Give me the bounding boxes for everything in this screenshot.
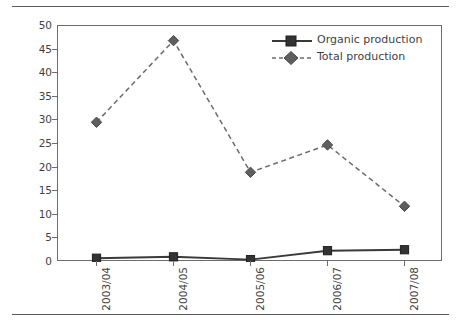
legend-marker-diamond-dashed	[270, 50, 314, 64]
y-axis-tick-label: 15	[26, 185, 52, 196]
figure-container: Production (thousand metric tons) 051015…	[0, 0, 461, 328]
y-axis-tick-label: 10	[26, 209, 52, 220]
data-point-marker	[400, 246, 408, 254]
legend-label-organic-production: Organic production	[317, 33, 422, 46]
y-axis-tick-label: 30	[26, 114, 52, 125]
x-axis-tick-mark	[96, 261, 97, 266]
x-axis-tick-mark	[173, 261, 174, 266]
y-axis-tick-labels: 05101520253035404550	[22, 25, 52, 261]
x-axis-tick-label: 2006/07	[331, 267, 343, 311]
data-point-marker	[168, 35, 178, 45]
x-axis-tick-mark	[404, 261, 405, 266]
data-point-marker	[169, 253, 177, 261]
figure-bottom-rule	[12, 314, 449, 315]
y-axis-tick-label: 25	[26, 138, 52, 149]
x-axis-tick-labels: 2003/042004/052005/062006/072007/08	[57, 267, 442, 313]
x-axis-tick-label: 2003/04	[100, 267, 112, 311]
chart-legend: Organic production Total production	[270, 31, 440, 65]
legend-marker-square-solid	[270, 33, 314, 47]
data-point-marker	[323, 247, 331, 255]
data-point-marker	[91, 117, 101, 127]
y-axis-tick-label: 40	[26, 67, 52, 78]
y-axis-tick-label: 5	[26, 232, 52, 243]
y-axis-tick-label: 20	[26, 162, 52, 173]
legend-item-organic-production[interactable]: Organic production	[270, 31, 440, 48]
x-axis-tick-mark	[250, 261, 251, 266]
x-axis-tick-label: 2007/08	[408, 267, 420, 311]
y-axis-tick-label: 0	[26, 256, 52, 267]
y-axis-tick-label: 35	[26, 91, 52, 102]
figure-top-rule	[12, 6, 449, 7]
x-axis-tick-label: 2004/05	[177, 267, 189, 311]
legend-item-total-production[interactable]: Total production	[270, 48, 440, 65]
x-axis-tick-mark	[327, 261, 328, 266]
series-line-2	[97, 41, 405, 207]
data-point-marker	[399, 201, 409, 211]
data-point-marker	[245, 167, 255, 177]
y-axis-tick-label: 45	[26, 44, 52, 55]
y-axis-tick-label: 50	[26, 20, 52, 31]
legend-label-total-production: Total production	[317, 50, 405, 63]
x-axis-tick-label: 2005/06	[254, 267, 266, 311]
